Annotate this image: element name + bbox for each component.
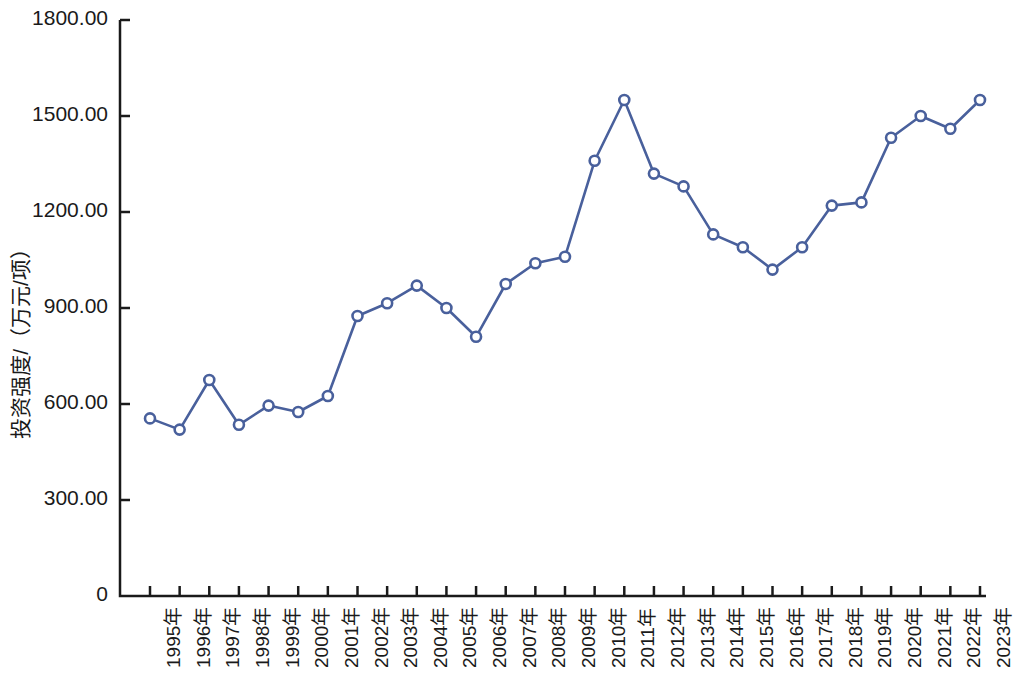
series-markers [145,95,985,435]
data-point [530,258,540,268]
x-axis-ticks [150,586,980,596]
x-axis-tick-label: 2000年 [306,607,333,668]
x-axis-tick-label: 2015年 [751,607,778,668]
data-point [886,133,896,143]
x-axis-tick-label: 2008年 [543,607,570,668]
data-point [204,375,214,385]
x-axis-tick-label: 2014年 [721,607,748,668]
x-axis-tick-label: 2018年 [840,607,867,668]
x-axis-tick-label: 1998年 [247,607,274,668]
data-point [145,413,155,423]
x-axis-tick-label: 2021年 [929,607,956,668]
data-point [590,156,600,166]
y-axis-tick-label: 0 [96,582,108,606]
data-point [175,425,185,435]
x-axis-tick-label: 2016年 [781,607,808,668]
data-point [560,252,570,262]
x-axis-tick-label: 2002年 [366,607,393,668]
x-axis-tick-label: 2020年 [899,607,926,668]
data-point [856,197,866,207]
x-axis-tick-label: 1995年 [158,607,185,668]
data-point [293,407,303,417]
data-point [471,332,481,342]
data-point [353,311,363,321]
y-axis-tick-label: 300.00 [44,486,108,510]
x-axis-tick-label: 2001年 [336,607,363,668]
x-axis-tick-label: 2017年 [810,607,837,668]
data-point [738,242,748,252]
x-axis-tick-label: 1999年 [277,607,304,668]
data-series-investment-intensity [145,95,985,435]
x-axis-tick-label: 2004年 [425,607,452,668]
y-axis-tick-label: 1200.00 [32,198,108,222]
y-axis-tick-label: 1800.00 [32,6,108,30]
x-axis-tick-label: 2013年 [692,607,719,668]
x-axis-tick-label: 2006年 [484,607,511,668]
data-point [619,95,629,105]
x-axis-tick-label: 2009年 [573,607,600,668]
axes-group [120,20,986,596]
x-axis-tick-label: 2005年 [454,607,481,668]
x-axis-tick-label: 2003年 [395,607,422,668]
x-axis-tick-label: 2007年 [514,607,541,668]
data-point [768,265,778,275]
data-point [827,201,837,211]
data-point [916,111,926,121]
x-axis-tick-label: 2023年 [988,607,1015,668]
x-axis-tick-label: 2012年 [662,607,689,668]
data-point [441,303,451,313]
data-point [708,229,718,239]
series-line [150,100,980,430]
data-point [234,420,244,430]
y-axis-ticks [120,20,130,500]
data-point [679,181,689,191]
data-point [975,95,985,105]
x-axis-tick-label: 2010年 [603,607,630,668]
data-point [412,281,422,291]
x-axis-tick-label: 2011年 [632,608,659,668]
data-point [264,401,274,411]
y-axis-tick-label: 600.00 [44,390,108,414]
data-point [501,279,511,289]
data-point [797,242,807,252]
x-axis-tick-label: 2022年 [958,607,985,668]
data-point [323,391,333,401]
x-axis-tick-label: 2019年 [869,607,896,668]
y-axis-tick-label: 900.00 [44,294,108,318]
x-axis-tick-label: 1996年 [188,607,215,668]
data-point [382,298,392,308]
data-point [945,124,955,134]
y-axis-tick-label: 1500.00 [32,102,108,126]
axis-lines [120,20,986,596]
x-axis-tick-label: 1997年 [217,607,244,668]
data-point [649,169,659,179]
